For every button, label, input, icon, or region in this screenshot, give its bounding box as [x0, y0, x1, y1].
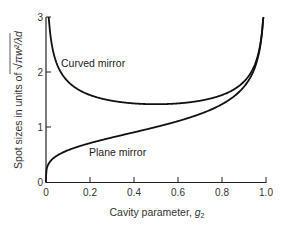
x-tick-label: 0.6 — [171, 187, 185, 198]
x-tick-label: 0.8 — [215, 187, 229, 198]
x-tick-label: 0 — [43, 187, 49, 198]
x-ticks — [90, 177, 266, 183]
y-axis-label: Spot sizes in units of √πw²/λd — [11, 30, 25, 169]
x-tick-labels: 0 0.2 0.4 0.6 0.8 1.0 — [43, 187, 273, 198]
y-tick-labels: 0 1 2 3 — [37, 12, 43, 188]
x-tick-label: 0.2 — [83, 187, 97, 198]
spot-size-chart: 0 1 2 3 0 0.2 0.4 0.6 0.8 1.0 Cavity par… — [0, 0, 284, 227]
x-tick-label: 0.4 — [127, 187, 141, 198]
y-tick-label: 3 — [37, 12, 43, 23]
x-tick-label: 1.0 — [259, 187, 273, 198]
plane-mirror-label: Plane mirror — [89, 146, 147, 158]
y-tick-label: 1 — [37, 122, 43, 133]
curved-mirror-label: Curved mirror — [61, 57, 126, 69]
svg-text:Spot sizes in units of √πw²/λd: Spot sizes in units of √πw²/λd — [11, 30, 25, 169]
plane-mirror-curve — [46, 18, 263, 182]
x-axis-label: Cavity parameter, g2 — [110, 206, 205, 219]
y-tick-label: 2 — [37, 67, 43, 78]
